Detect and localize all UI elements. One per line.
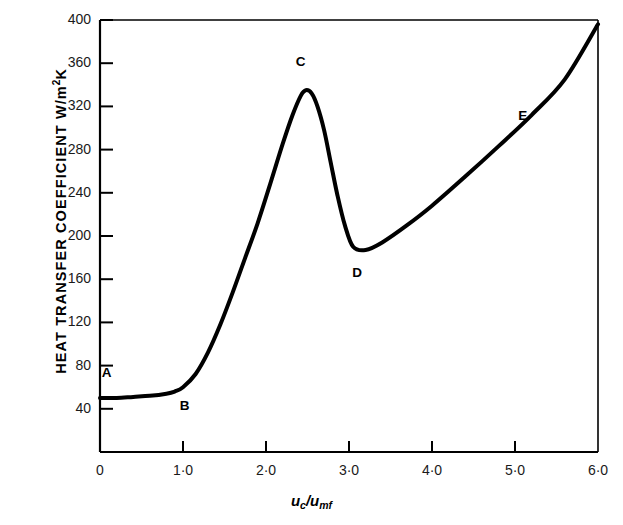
x-axis-label: uc/umf — [0, 492, 623, 509]
plot-area — [0, 0, 623, 525]
x-tick-label: 2·0 — [236, 462, 296, 478]
x-tick-label: 1·0 — [153, 462, 213, 478]
y-tick-label: 320 — [68, 97, 91, 113]
curve-point-label-a: A — [102, 365, 112, 380]
x-tick-label: 0 — [70, 462, 130, 478]
y-tick-label: 200 — [68, 227, 91, 243]
x-tick-label: 5·0 — [485, 462, 545, 478]
curve-point-label-b: B — [180, 398, 190, 413]
curve-point-label-c: C — [296, 54, 306, 69]
curve-point-label-d: D — [352, 265, 362, 280]
x-axis-label-sub2: mf — [319, 499, 332, 511]
y-tick-label: 400 — [68, 11, 91, 27]
tick-marks-group — [100, 20, 515, 452]
x-axis-label-base2: u — [310, 492, 319, 509]
y-tick-label: 280 — [68, 141, 91, 157]
y-axis-label: HEAT TRANSFER COEFFICIENT W/m2K — [51, 21, 69, 421]
y-tick-label: 360 — [68, 54, 91, 70]
x-axis-label-base1: u — [291, 492, 300, 509]
y-tick-label: 80 — [75, 357, 91, 373]
data-series-group — [100, 24, 598, 398]
y-axis-label-tail: K — [53, 68, 69, 80]
x-tick-label: 6·0 — [568, 462, 623, 478]
y-tick-label: 240 — [68, 184, 91, 200]
curve-point-label-e: E — [518, 108, 527, 123]
y-axis-label-main: HEAT TRANSFER COEFFICIENT W/m — [53, 85, 69, 374]
data-curve — [100, 24, 598, 398]
x-tick-label: 4·0 — [402, 462, 462, 478]
y-tick-label: 160 — [68, 270, 91, 286]
chart-figure: HEAT TRANSFER COEFFICIENT W/m2K uc/umf 4… — [0, 0, 623, 525]
y-tick-label: 120 — [68, 313, 91, 329]
x-axis-label-sub1: c — [300, 499, 306, 511]
y-tick-label: 40 — [75, 400, 91, 416]
x-tick-label: 3·0 — [319, 462, 379, 478]
y-axis-label-exponent: 2 — [51, 80, 62, 86]
